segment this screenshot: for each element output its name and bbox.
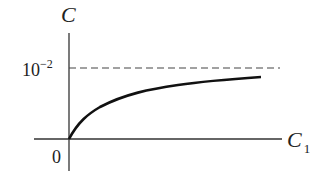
reference-label-exponent: −2 — [40, 57, 53, 71]
reference-label-base: 10 — [22, 60, 40, 80]
reference-label: 10−2 — [22, 57, 53, 80]
y-axis-label: C — [61, 2, 76, 27]
chart: C 10−2 0 C1 — [0, 0, 335, 182]
x-axis-label: C1 — [287, 127, 310, 156]
x-axis-label-subscript: 1 — [304, 141, 311, 156]
data-curve — [69, 77, 261, 139]
origin-label: 0 — [52, 147, 61, 167]
x-axis-label-main: C — [287, 127, 302, 152]
